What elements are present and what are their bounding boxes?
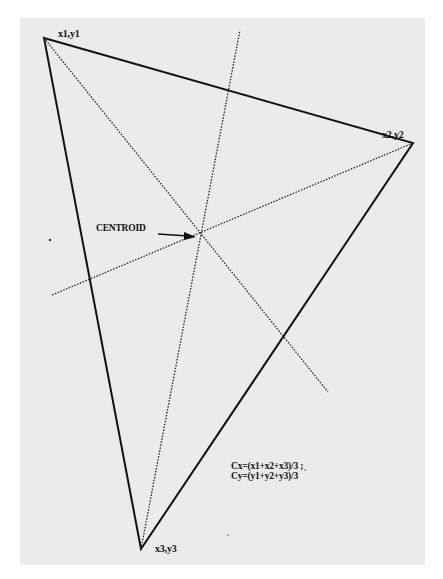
vertex-2-label: x2,y2	[382, 129, 404, 140]
centroid-arrow	[158, 234, 188, 236]
vertex-1-label: x1,y1	[58, 28, 80, 39]
median-from-vertex-3	[141, 30, 240, 549]
centroid-formula: Cx=(x1+x2+x3)/3 ; Cy=(y1+y2+y3)/3	[231, 461, 303, 481]
triangle-outline	[44, 38, 413, 549]
triangle-diagram	[0, 0, 443, 579]
formula-cy: Cy=(y1+y2+y3)/3	[231, 471, 303, 481]
median-from-vertex-1	[44, 38, 328, 392]
formula-cx: Cx=(x1+x2+x3)/3 ;	[231, 461, 303, 471]
centroid-label: CENTROID	[96, 223, 146, 233]
vertex-3-label: x3,y3	[155, 543, 177, 554]
centroid-arrowhead	[184, 232, 196, 240]
